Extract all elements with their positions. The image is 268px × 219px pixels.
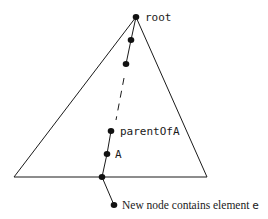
- edge-parentofa-to-a: [107, 131, 111, 154]
- label-new-node: New node contains element e: [122, 199, 259, 212]
- node-root: [133, 14, 140, 20]
- node-new: [111, 202, 118, 208]
- node-path-2: [123, 61, 130, 67]
- node-leaf-at-base: [99, 174, 106, 180]
- diagram-canvas: root parentOfA A New node contains eleme…: [0, 0, 268, 219]
- label-parentofa: parentOfA: [120, 125, 180, 138]
- tree-diagram: root parentOfA A New node contains eleme…: [0, 0, 268, 219]
- edge-child-to-grandchild: [126, 40, 131, 64]
- dashed-path-edge: [116, 78, 124, 120]
- edge-a-to-leaf: [102, 154, 107, 177]
- node-path-1: [128, 37, 135, 43]
- edge-leaf-to-new-node: [102, 177, 114, 205]
- label-root: root: [145, 11, 172, 24]
- node-parentofa: [108, 128, 115, 134]
- tree-triangle: [14, 17, 207, 177]
- label-new-node-text: New node contains element: [122, 199, 252, 211]
- label-new-node-element: e: [252, 199, 259, 212]
- node-a: [104, 151, 111, 157]
- label-a: A: [115, 148, 122, 161]
